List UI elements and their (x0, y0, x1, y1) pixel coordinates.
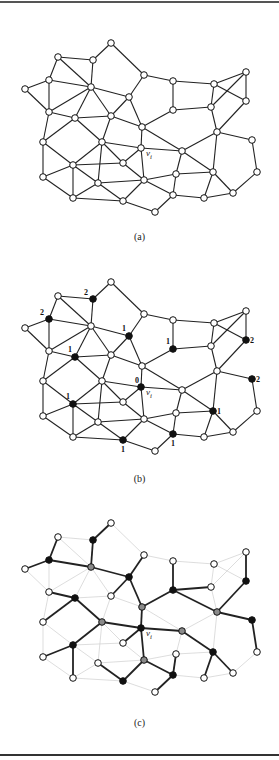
graph-edge (144, 419, 173, 434)
graph-edge (217, 101, 246, 132)
graph-edge (73, 183, 98, 198)
graph-node (173, 410, 180, 417)
graph-edge (73, 404, 98, 422)
node-count-label: 2 (256, 375, 260, 384)
node-count-label: 1 (121, 445, 125, 454)
graph-edge (111, 43, 144, 75)
graph-node (108, 113, 115, 120)
graph-edge (25, 319, 49, 328)
graph-node (99, 139, 106, 146)
graph-node (99, 619, 106, 626)
graph-edge (217, 340, 246, 371)
graph-edge (217, 132, 252, 140)
graph-edge (73, 142, 102, 165)
graph-node (170, 558, 177, 565)
graph-edge (98, 419, 144, 422)
graph-edge (213, 612, 217, 652)
graph-node (120, 437, 127, 444)
graph-edge (123, 402, 144, 419)
graph-node (126, 94, 133, 101)
graph-edge (98, 622, 102, 663)
graph-edge (75, 118, 102, 142)
graph-node (108, 352, 115, 359)
graph-edge (204, 193, 233, 198)
graph-node (120, 640, 127, 647)
graph-node (208, 584, 215, 591)
tree-edge (144, 660, 173, 675)
graph-node (201, 195, 208, 202)
graph-edge (182, 151, 213, 172)
node-count-label: 2 (250, 336, 254, 345)
graph-node (249, 617, 256, 624)
graph-node (254, 169, 261, 176)
graph-edge (252, 140, 257, 172)
graph-node (230, 670, 237, 677)
node-count-label: 1 (66, 392, 70, 401)
graph-node (22, 325, 29, 332)
graph-edge (213, 132, 217, 172)
graph-edge (182, 390, 213, 411)
graph-node (214, 609, 221, 616)
graph-node (254, 408, 261, 415)
graph-edge (43, 404, 73, 416)
graph-node (55, 534, 62, 541)
tree-edge (141, 628, 144, 660)
graph-edge (102, 355, 111, 381)
graph-edge (233, 172, 257, 193)
graph-node (249, 137, 256, 144)
graph-edge (233, 411, 257, 432)
graph-edge (173, 107, 211, 110)
graph-edge (25, 569, 49, 592)
graph-node (208, 343, 215, 350)
graph-node (70, 401, 77, 408)
caption-b: (b) (0, 473, 279, 484)
graph-node (108, 520, 115, 527)
graph-edge (111, 523, 144, 555)
graph-node (40, 654, 47, 661)
graph-node (40, 378, 47, 385)
tree-edge (213, 652, 233, 673)
graph-node (141, 177, 148, 184)
graph-edge (204, 172, 213, 198)
graph-edge (102, 596, 111, 622)
graph-node (22, 86, 29, 93)
graph-node (208, 104, 215, 111)
graph-node (55, 54, 62, 61)
graph-node (243, 69, 250, 76)
graph-edge (73, 165, 98, 183)
graph-node (108, 40, 115, 47)
graph-edge (98, 180, 144, 183)
graph-edge (73, 643, 123, 645)
graph-node (141, 311, 148, 318)
graph-node (170, 107, 177, 114)
graph-node (179, 628, 186, 635)
graph-edge (213, 371, 217, 411)
graph-edge (123, 643, 144, 660)
graph-node (90, 57, 97, 64)
graph-edge (173, 434, 204, 437)
graph-node (70, 675, 77, 682)
tree-edge (129, 577, 142, 607)
graph-node (210, 169, 217, 176)
graph-edge (173, 346, 211, 349)
graph-node (243, 98, 250, 105)
graph-edge (173, 81, 214, 84)
panel-a: vi (22, 40, 261, 216)
graph-edge (176, 652, 213, 654)
graph-node (139, 604, 146, 611)
graph-edge (91, 60, 93, 87)
vertex-vi-label: vi (146, 148, 152, 161)
graph-edge (73, 437, 123, 440)
graph-node (40, 619, 47, 626)
graph-edge (73, 645, 98, 663)
graph-edge (75, 357, 102, 381)
graph-node (152, 448, 159, 455)
graph-edge (123, 180, 144, 201)
graph-node (249, 376, 256, 383)
graph-edge (73, 678, 123, 681)
graph-edge (75, 355, 111, 357)
graph-node (141, 416, 148, 423)
graph-node (120, 678, 127, 685)
graph-edge (141, 148, 144, 180)
graph-edge (217, 371, 252, 379)
